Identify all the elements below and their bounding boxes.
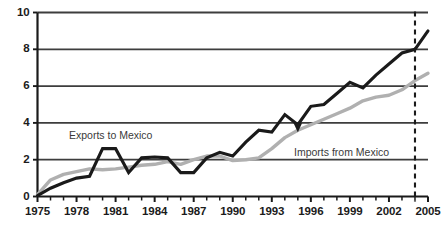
x-axis-label-2005: 2005 [415, 205, 440, 217]
x-axis-label-1984: 1984 [142, 205, 167, 217]
x-axis-label-1993: 1993 [259, 205, 284, 217]
x-axis-label-1987: 1987 [181, 205, 206, 217]
y-axis-label-2: 2 [0, 153, 30, 165]
x-axis-label-1978: 1978 [64, 205, 89, 217]
x-axis-label-2002: 2002 [376, 205, 401, 217]
y-axis-label-0: 0 [0, 190, 30, 202]
x-axis-label-1975: 1975 [25, 205, 50, 217]
imports-series-label: Imports from Mexico [294, 146, 389, 158]
y-axis-label-6: 6 [0, 79, 30, 91]
x-axis-label-1990: 1990 [220, 205, 245, 217]
x-axis-label-1996: 1996 [298, 205, 323, 217]
x-axis-label-1981: 1981 [103, 205, 128, 217]
x-axis-label-1999: 1999 [337, 205, 362, 217]
y-axis-label-8: 8 [0, 42, 30, 54]
y-axis-label-4: 4 [0, 116, 30, 128]
y-axis-label-10: 10 [0, 6, 30, 18]
exports-series-label: Exports to Mexico [69, 129, 152, 141]
